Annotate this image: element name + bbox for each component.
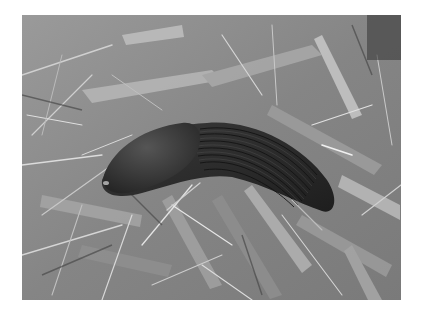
photo bbox=[22, 15, 401, 300]
slug-scene bbox=[22, 15, 401, 300]
